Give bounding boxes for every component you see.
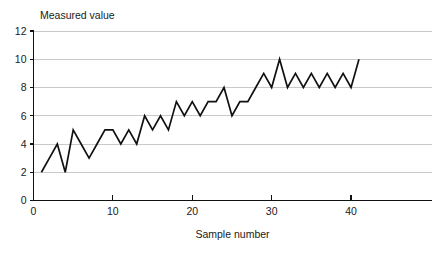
x-tick-label: 20	[186, 205, 198, 217]
y-tick-label: 0	[21, 194, 27, 206]
y-tick-label: 10	[15, 53, 27, 65]
y-tick-label: 12	[15, 25, 27, 37]
chart-background	[0, 0, 448, 256]
y-axis-title: Measured value	[40, 9, 115, 21]
x-tick-label: 40	[345, 205, 357, 217]
y-tick-label: 2	[21, 166, 27, 178]
line-chart: 024681012 010203040 Measured value Sampl…	[0, 0, 448, 256]
y-tick-label: 4	[21, 138, 27, 150]
x-tick-label: 10	[107, 205, 119, 217]
x-axis-title: Sample number	[195, 228, 270, 240]
x-tick-label: 0	[31, 205, 37, 217]
chart-figure: 024681012 010203040 Measured value Sampl…	[0, 0, 448, 256]
x-tick-label: 30	[266, 205, 278, 217]
y-tick-label: 8	[21, 81, 27, 93]
y-tick-label: 6	[21, 110, 27, 122]
